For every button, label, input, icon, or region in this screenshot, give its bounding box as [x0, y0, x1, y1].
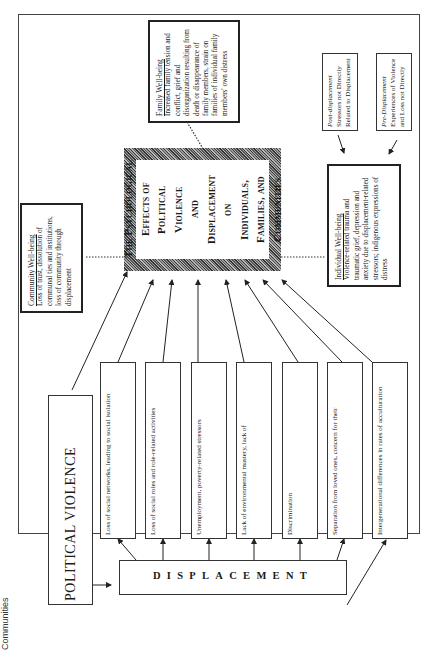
central-title-line: Individuals, [236, 160, 253, 259]
central-title: The Psychological Effects of Political V… [120, 160, 285, 259]
community-wellbeing-heading: Community Well-being [27, 210, 36, 306]
family-wellbeing-box: Family Well-being Increased family tensi… [148, 20, 240, 123]
central-title-line: on [219, 160, 236, 259]
factor-text: Loss of social networks, leading to soci… [104, 366, 113, 535]
political-violence-label: POLITICAL VIOLENCE [62, 399, 79, 601]
factor-box: Intergenerational differences in rates o… [372, 362, 408, 539]
central-title-line: and [186, 160, 203, 259]
factor-text: Intergenerational differences in rates o… [376, 366, 385, 535]
factor-box: Unemployment, poverty-related stressors [191, 362, 227, 539]
post-displacement-text: Stressors not Directly Related to Displa… [335, 58, 352, 127]
central-title-line: Families, and [252, 160, 269, 259]
central-title-line: Effects of Political [137, 160, 170, 259]
central-concept-box: The Psychological Effects of Political V… [124, 148, 281, 271]
factor-text: Loss of social roles and role-related ac… [149, 366, 158, 535]
pre-displacement-prefix: Pre-Displacement [380, 76, 388, 127]
central-title-line: The Psychological [120, 160, 137, 259]
community-wellbeing-text: Loss of trust, dissolution of communal t… [36, 210, 74, 306]
factor-box: Separation from loved ones, concern for … [327, 362, 363, 539]
family-wellbeing-heading: Family Well-being [155, 27, 164, 116]
displacement-label: DISPLACEMENT [120, 570, 346, 581]
individual-wellbeing-text: Violence-related trauma and traumatic gr… [343, 171, 390, 280]
factor-box: Loss of social roles and role-related ac… [145, 362, 181, 539]
individual-wellbeing-heading: Individual Well-being [334, 171, 343, 280]
central-title-line: Communities [269, 160, 286, 259]
factor-text: Separation from loved ones, concern for … [331, 366, 340, 535]
community-wellbeing-box: Community Well-being Loss of trust, diss… [20, 203, 83, 313]
factor-text: Lack of environmental mastery, lack of [240, 366, 249, 535]
pre-displacement-text: Experiences of Violence and Loss not Dir… [389, 59, 406, 127]
factor-box: Loss of social networks, leading to soci… [100, 362, 136, 539]
displacement-bar: DISPLACEMENT [119, 560, 347, 595]
factor-box: Lack of environmental mastery, lack of [236, 362, 272, 539]
central-title-line: Displacement [203, 160, 220, 259]
family-wellbeing-text: Increased family tension and conflict, g… [164, 27, 230, 116]
post-displacement-stressors-box: Post-displacement Stressors not Directly… [322, 53, 358, 131]
political-violence-box: POLITICAL VIOLENCE [48, 395, 93, 605]
factor-box: Discrimination [282, 362, 318, 539]
pre-displacement-experiences-box: Pre-Displacement Experiences of Violence… [376, 53, 412, 131]
central-title-line: Violence [170, 160, 187, 259]
factor-text: Discrimination [286, 366, 295, 535]
individual-wellbeing-box: Individual Well-being Violence-related t… [327, 164, 401, 287]
factor-text: Unemployment, poverty-related stressors [195, 366, 204, 535]
post-displacement-prefix: Post-displacement [326, 75, 334, 127]
